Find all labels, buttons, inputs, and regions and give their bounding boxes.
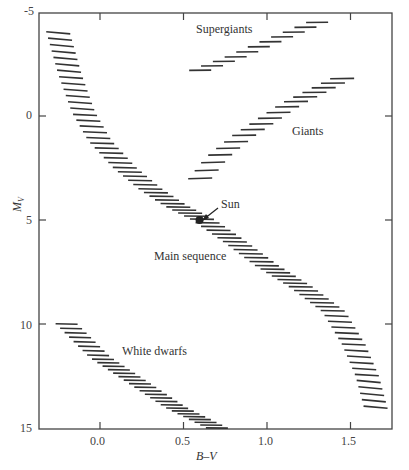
y-tick-label: 5 [26, 213, 32, 228]
main-sequence-dash [66, 96, 90, 98]
main-sequence-dash [108, 163, 132, 164]
x-tick-label: 0.5 [175, 434, 190, 449]
main-sequence-dash [83, 132, 107, 133]
main-sequence-dash [342, 344, 366, 345]
main-sequence-dash [335, 333, 359, 334]
giants-dash [195, 170, 219, 171]
main-sequence-dash [325, 316, 349, 317]
plot-frame [39, 13, 392, 429]
white-dwarfs-dash [83, 351, 105, 352]
white-dwarfs-dash [87, 355, 109, 356]
main-sequence-dash [90, 143, 114, 144]
main-sequence-dash [64, 89, 88, 91]
hr-diagram-plot [0, 0, 409, 470]
main-sequence-dash [338, 338, 362, 339]
main-sequence-dash [95, 148, 119, 149]
giants-dash [188, 178, 212, 179]
label-white-dwarfs: White dwarfs [122, 344, 187, 359]
main-sequence-dash [360, 393, 384, 395]
main-sequence-dash [57, 70, 81, 72]
main-sequence-dash [99, 153, 123, 154]
y-tick-label: 10 [20, 318, 32, 333]
label-supergiants: Supergiants [196, 22, 252, 37]
main-sequence-dash [347, 356, 371, 357]
main-sequence-dash [70, 108, 94, 110]
main-sequence-dash [61, 83, 85, 85]
white-dwarfs-dash [56, 324, 78, 325]
white-dwarfs-dash [74, 342, 96, 343]
main-sequence-dash [344, 350, 368, 351]
main-sequence-dash [331, 327, 355, 328]
main-sequence-dash [59, 77, 83, 79]
white-dwarfs-dash [78, 346, 100, 347]
main-sequence-dash [352, 368, 376, 369]
main-sequence-dash [86, 137, 110, 138]
x-tick-label: 1.5 [341, 434, 356, 449]
main-sequence-dash [76, 120, 100, 121]
main-sequence-dash [55, 64, 79, 66]
main-sequence-dash [50, 45, 74, 47]
label-sun: Sun [221, 197, 240, 212]
main-sequence-dash [52, 51, 76, 53]
label-main-sequence: Main sequence [154, 249, 226, 264]
x-tick-label: 1.0 [258, 434, 273, 449]
main-sequence-dash [357, 380, 381, 382]
y-tick-label: 15 [20, 421, 32, 436]
main-sequence-dash [80, 126, 104, 127]
main-sequence-dash [358, 387, 382, 389]
label-giants: Giants [292, 124, 323, 139]
main-sequence-dash [53, 57, 77, 59]
white-dwarfs-dash [60, 328, 82, 329]
main-sequence-dash [113, 167, 137, 168]
x-tick-label: 0.0 [90, 434, 105, 449]
x-axis-label: B–V [196, 449, 217, 464]
giants-dash [201, 162, 225, 163]
main-sequence-dash [104, 158, 128, 159]
main-sequence-dash [364, 406, 388, 408]
sun-marker [196, 216, 204, 224]
main-sequence-dash [46, 32, 70, 34]
main-sequence-dash [350, 362, 374, 363]
white-dwarfs-dash [69, 337, 91, 338]
y-tick-label: 0 [26, 108, 32, 123]
main-sequence-dash [73, 114, 97, 115]
white-dwarfs-dash [65, 333, 87, 334]
main-sequence-dash [48, 38, 72, 40]
main-sequence-dash [355, 374, 379, 375]
main-sequence-dash [328, 321, 352, 322]
y-tick-label: -5 [24, 4, 34, 19]
y-axis-label: MV [10, 197, 26, 212]
main-sequence-dash [362, 400, 386, 402]
main-sequence-dash [68, 102, 92, 104]
